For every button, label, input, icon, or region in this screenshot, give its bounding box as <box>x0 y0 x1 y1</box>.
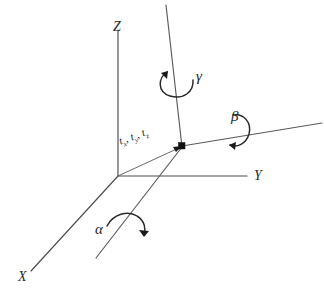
frame-axis-z-prime <box>166 5 182 147</box>
figure-root: Z Y X γ β α tx,ty,tz <box>0 0 324 298</box>
rotation-arc-alpha <box>107 213 145 235</box>
translated-frame-origin-marker <box>179 143 186 150</box>
axis-label-x: X <box>18 270 27 284</box>
rotation-arrow-beta <box>229 142 236 150</box>
rotation-label-beta: β <box>231 109 238 124</box>
coordinate-diagram-svg <box>0 0 324 298</box>
axis-label-z: Z <box>113 20 121 34</box>
frame-axis-y-prime <box>182 123 322 146</box>
frame-axis-x-prime <box>96 147 182 258</box>
translation-label-tz: tz <box>140 126 150 141</box>
rotation-label-gamma: γ <box>196 69 202 84</box>
translation-label-ty: ty, <box>129 129 142 145</box>
translation-vector <box>118 147 181 176</box>
axis-line-x <box>31 176 118 271</box>
rotation-label-alpha: α <box>95 222 103 237</box>
rotation-arrow-alpha <box>139 230 149 237</box>
axis-label-y: Y <box>254 169 262 183</box>
